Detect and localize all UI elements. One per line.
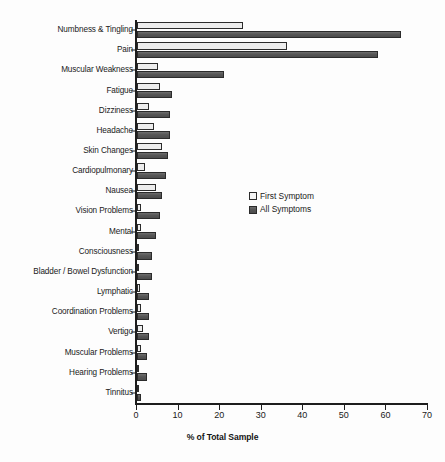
legend-label-first-symptom: First Symptom bbox=[260, 192, 314, 200]
category-label: Skin Changes bbox=[83, 147, 133, 155]
bar-first-symptom bbox=[137, 143, 162, 150]
category-label: Mental bbox=[109, 228, 133, 236]
category-label: Consciousness bbox=[79, 248, 133, 256]
x-axis-tick-label: 20 bbox=[214, 411, 224, 420]
bar-first-symptom bbox=[137, 184, 156, 191]
bar-all-symptoms bbox=[137, 91, 172, 98]
bar-all-symptoms bbox=[137, 31, 401, 38]
category-label: Bladder / Bowel Dysfunction bbox=[33, 268, 133, 276]
chart-row: Fatigue bbox=[0, 80, 445, 100]
y-axis-tick bbox=[131, 352, 136, 353]
y-axis-tick bbox=[131, 292, 136, 293]
chart-row: Coordination Problems bbox=[0, 302, 445, 322]
bar-all-symptoms bbox=[137, 172, 166, 179]
chart-row: Hearing Problems bbox=[0, 363, 445, 383]
category-label: Lymphatic bbox=[97, 288, 133, 296]
y-axis-tick bbox=[131, 211, 136, 212]
y-axis-tick bbox=[131, 231, 136, 232]
bar-first-symptom bbox=[137, 345, 141, 352]
y-axis-tick bbox=[131, 50, 136, 51]
bar-all-symptoms bbox=[137, 293, 149, 300]
bar-all-symptoms bbox=[137, 373, 147, 380]
chart-row: Skin Changes bbox=[0, 141, 445, 161]
y-axis-tick bbox=[131, 90, 136, 91]
category-label: Muscular Weakness bbox=[61, 66, 133, 74]
chart-row: Dizziness bbox=[0, 101, 445, 121]
category-label: Tinnitus bbox=[105, 389, 133, 397]
category-label: Vision Problems bbox=[75, 207, 133, 215]
chart-legend: First Symptom All Symptoms bbox=[249, 192, 314, 219]
category-label: Muscular Problems bbox=[65, 348, 133, 356]
y-axis-tick bbox=[131, 332, 136, 333]
legend-item-all-symptoms: All Symptoms bbox=[249, 205, 314, 213]
y-axis-tick bbox=[131, 171, 136, 172]
y-axis-tick bbox=[131, 372, 136, 373]
chart-row: Numbness & Tingling bbox=[0, 20, 445, 40]
y-axis-tick bbox=[131, 312, 136, 313]
bar-all-symptoms bbox=[137, 71, 224, 78]
bar-first-symptom bbox=[137, 204, 141, 211]
bar-first-symptom bbox=[137, 22, 243, 29]
bar-first-symptom bbox=[137, 224, 141, 231]
chart-row: Bladder / Bowel Dysfunction bbox=[0, 262, 445, 282]
bar-first-symptom bbox=[137, 325, 143, 332]
y-axis-tick bbox=[131, 271, 136, 272]
y-axis-tick bbox=[131, 110, 136, 111]
category-label: Dizziness bbox=[99, 107, 133, 115]
bar-all-symptoms bbox=[137, 232, 156, 239]
bar-first-symptom bbox=[137, 304, 141, 311]
category-label: Fatigue bbox=[106, 86, 133, 94]
y-axis-tick bbox=[131, 30, 136, 31]
bar-first-symptom bbox=[137, 244, 139, 251]
chart-row: Mental bbox=[0, 222, 445, 242]
bar-first-symptom bbox=[137, 264, 139, 271]
bar-all-symptoms bbox=[137, 51, 378, 58]
bar-first-symptom bbox=[137, 284, 140, 291]
x-axis-tick-label: 10 bbox=[173, 411, 183, 420]
y-axis-tick bbox=[131, 251, 136, 252]
chart-category-rows: Numbness & TinglingPainMuscular Weakness… bbox=[0, 20, 445, 403]
y-axis-tick bbox=[131, 191, 136, 192]
category-label: Nausea bbox=[105, 187, 133, 195]
category-label: Coordination Problems bbox=[52, 308, 133, 316]
chart-row: Muscular Problems bbox=[0, 343, 445, 363]
bar-first-symptom bbox=[137, 365, 139, 372]
symptom-frequency-bar-chart: Numbness & TinglingPainMuscular Weakness… bbox=[0, 0, 445, 462]
bar-all-symptoms bbox=[137, 252, 152, 259]
y-axis-tick bbox=[131, 151, 136, 152]
x-axis-tick-label: 70 bbox=[422, 411, 432, 420]
bar-first-symptom bbox=[137, 63, 158, 70]
bar-all-symptoms bbox=[137, 192, 162, 199]
chart-row: Cardiopulmonary bbox=[0, 161, 445, 181]
category-label: Hearing Problems bbox=[69, 369, 133, 377]
y-axis-tick bbox=[131, 392, 136, 393]
bar-first-symptom bbox=[137, 123, 154, 130]
category-label: Vertigo bbox=[108, 328, 133, 336]
category-label: Cardiopulmonary bbox=[72, 167, 133, 175]
y-axis-tick bbox=[131, 70, 136, 71]
chart-row: Muscular Weakness bbox=[0, 60, 445, 80]
bar-all-symptoms bbox=[137, 333, 149, 340]
bar-all-symptoms bbox=[137, 152, 168, 159]
bar-all-symptoms bbox=[137, 313, 149, 320]
bar-all-symptoms bbox=[137, 273, 152, 280]
legend-label-all-symptoms: All Symptoms bbox=[260, 205, 311, 213]
bar-all-symptoms bbox=[137, 111, 170, 118]
chart-row: Vertigo bbox=[0, 322, 445, 342]
x-axis-tick-label: 40 bbox=[297, 411, 307, 420]
x-axis-ticks: 010203040506070 bbox=[136, 405, 427, 429]
x-axis-tick-label: 30 bbox=[256, 411, 266, 420]
bar-first-symptom bbox=[137, 42, 287, 49]
chart-row: Lymphatic bbox=[0, 282, 445, 302]
bar-first-symptom bbox=[137, 103, 149, 110]
chart-row: Nausea bbox=[0, 181, 445, 201]
chart-row: Vision Problems bbox=[0, 201, 445, 221]
category-label: Numbness & Tingling bbox=[58, 26, 133, 34]
chart-row: Headache bbox=[0, 121, 445, 141]
bar-first-symptom bbox=[137, 163, 145, 170]
bar-all-symptoms bbox=[137, 212, 160, 219]
chart-row: Pain bbox=[0, 40, 445, 60]
y-axis-tick bbox=[131, 130, 136, 131]
bar-all-symptoms bbox=[137, 131, 170, 138]
first-symptom-swatch bbox=[249, 192, 257, 200]
